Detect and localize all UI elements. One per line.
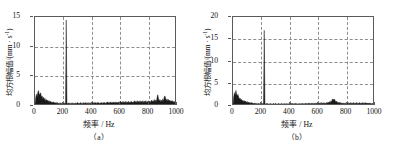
- panel-a-data-layer: [35, 17, 175, 104]
- panel-b-y-tick-mark: [228, 16, 231, 17]
- panel-b-y-tick-label: 5: [188, 79, 218, 87]
- panel-b-data-layer: [233, 17, 373, 104]
- panel-b-x-axis-label: 频率 / Hz: [198, 118, 396, 129]
- panel-a-y-axis-label: 均方根幅值/(mm · s-1): [1, 16, 14, 108]
- panel-b-x-tick-label: 1000: [357, 107, 391, 116]
- panel-a-x-tick-mark: [62, 102, 63, 105]
- panel-b-x-tick-mark: [317, 102, 318, 105]
- panel-a-y-tick-mark: [30, 16, 33, 17]
- panel-b-y-tick-label: 20: [188, 12, 218, 20]
- panel-a-y-tick-mark: [30, 105, 33, 106]
- panel-a-x-tick-mark: [119, 102, 120, 105]
- panel-b-y-tick-label: 15: [188, 34, 218, 42]
- panel-b-y-tick-mark: [228, 61, 231, 62]
- panel-a-y-tick-label: 5: [0, 71, 20, 79]
- panel-a-y-tick-label: 15: [0, 12, 20, 20]
- panel-a-caption: （a）: [0, 131, 198, 142]
- panel-b-x-tick-mark: [289, 102, 290, 105]
- panel-b-x-tick-mark: [260, 102, 261, 105]
- panel-b: 均方根幅值/(mm · s-1) 05101520 02004006008001…: [198, 0, 396, 150]
- panel-a-y-tick-mark: [30, 46, 33, 47]
- panel-a-plot-area: [34, 16, 176, 105]
- panel-a-x-tick-mark: [176, 102, 177, 105]
- panel-b-y-tick-mark: [228, 83, 231, 84]
- panel-b-x-tick-mark: [346, 102, 347, 105]
- panel-b-spectrum-trace: [233, 17, 374, 105]
- panel-b-plot-area: [232, 16, 374, 105]
- panel-b-y-tick-label: 0: [188, 101, 218, 109]
- panel-a-y-tick-mark: [30, 75, 33, 76]
- panel-b-x-tick-mark: [232, 102, 233, 105]
- panel-a-x-tick-mark: [148, 102, 149, 105]
- panel-a-x-axis-label: 频率 / Hz: [0, 118, 198, 129]
- panel-b-y-tick-mark: [228, 105, 231, 106]
- panel-b-y-tick-label: 10: [188, 57, 218, 65]
- panel-a-x-tick-mark: [34, 102, 35, 105]
- panel-a-spectrum-trace: [35, 17, 176, 105]
- panel-b-caption: （b）: [198, 131, 396, 142]
- panel-a: 均方根幅值/(mm · s-1) 051015 0200400600800100…: [0, 0, 198, 150]
- spectra-figure: 均方根幅值/(mm · s-1) 051015 0200400600800100…: [0, 0, 396, 150]
- panel-a-y-tick-label: 10: [0, 42, 20, 50]
- panel-a-x-tick-mark: [91, 102, 92, 105]
- panel-b-trace-path: [233, 30, 374, 105]
- panel-a-trace-path: [35, 20, 176, 105]
- panel-b-y-tick-mark: [228, 38, 231, 39]
- panel-b-x-tick-mark: [374, 102, 375, 105]
